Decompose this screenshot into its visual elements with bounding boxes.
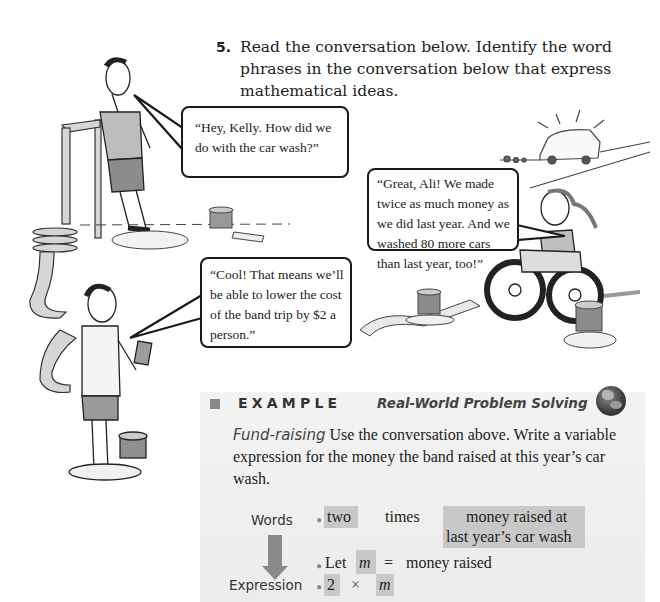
example-box: EXAMPLE Real-World Problem Solving Fund-… xyxy=(200,392,645,602)
word-let: Let xyxy=(325,554,346,572)
boy-with-sponge-figure xyxy=(69,286,152,480)
number-2: 2 xyxy=(327,576,335,594)
speech-bubble-kelly: “Great, Ali! We made twice as much money… xyxy=(367,168,519,251)
example-prompt: Fund-raising Use the conversation above.… xyxy=(233,424,643,490)
example-subtitle: Real-World Problem Solving xyxy=(377,395,588,411)
car-icon xyxy=(500,110,650,188)
example-square-icon xyxy=(210,399,220,409)
globe-icon xyxy=(596,386,626,416)
word-two: two xyxy=(327,508,351,526)
times-sign: × xyxy=(351,576,360,594)
question-text: Read the conversation below. Identify th… xyxy=(240,36,656,102)
speech-bubble-ali: “Hey, Kelly. How did we do with the car … xyxy=(181,106,349,178)
example-title: EXAMPLE xyxy=(238,395,341,411)
speech-bubble-friend: “Cool! That means we’ll be able to lower… xyxy=(200,257,352,348)
bullet-2: • xyxy=(315,559,323,575)
question-number: 5. xyxy=(216,36,231,58)
word-times: times xyxy=(385,508,420,526)
money-raised-def: money raised xyxy=(406,554,492,572)
equals-sign: = xyxy=(384,554,393,572)
bullet-1: • xyxy=(315,513,323,529)
question-5: 5. Read the conversation below. Identify… xyxy=(216,36,656,102)
words-label: Words xyxy=(251,512,293,528)
bullet-3: • xyxy=(315,580,323,596)
boy-leaning-figure xyxy=(100,60,150,230)
word-money-line1: money raised at xyxy=(466,508,567,526)
expression-label: Expression xyxy=(229,577,302,593)
variable-m-expr: m xyxy=(379,576,391,594)
word-money-line2: last year’s car wash xyxy=(446,528,571,546)
down-arrow-icon xyxy=(268,535,282,569)
variable-m: m xyxy=(359,554,371,572)
example-lead: Fund-raising xyxy=(233,426,326,444)
